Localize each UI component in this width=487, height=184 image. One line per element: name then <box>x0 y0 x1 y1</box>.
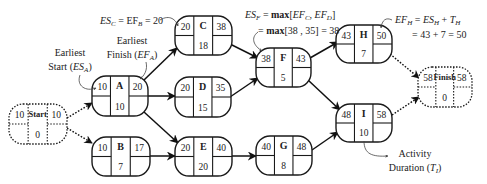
annotation-earliest-finish-l2: Finish (EFA) <box>107 49 158 62</box>
node-label: Finish <box>433 72 456 82</box>
edge-f-h <box>310 42 338 58</box>
node-label: E <box>200 141 207 152</box>
edge-g-i <box>312 132 338 150</box>
earliest-finish-value: 58 <box>377 110 387 120</box>
node-label: G <box>280 140 288 151</box>
node-label: C <box>200 20 207 31</box>
duration-value: 10 <box>115 102 125 112</box>
node-d: D203515 <box>175 77 231 117</box>
duration-value: 0 <box>35 130 40 140</box>
duration-value: 8 <box>281 161 286 171</box>
network-diagram: Start10100A102010B10177C203818D203515E20… <box>0 0 487 184</box>
earliest-start-value: 38 <box>261 54 271 64</box>
node-label: Start <box>28 109 47 119</box>
node-g: G40488 <box>256 136 312 175</box>
earliest-finish-value: 40 <box>217 143 227 153</box>
annotation-ef-h-line1: EFH = ESH + TH <box>394 14 461 27</box>
annotation-earliest-start-l1: Earliest <box>55 47 86 58</box>
annotation-es-f-line2: = max[38 , 35] = 38 <box>258 25 339 36</box>
earliest-finish-value: 20 <box>133 82 143 92</box>
node-h: H43507 <box>336 25 392 63</box>
node-finish: Finish58580 <box>418 67 472 107</box>
earliest-start-value: 20 <box>181 143 191 153</box>
earliest-start-value: 10 <box>97 82 107 92</box>
earliest-finish-value: 43 <box>296 54 306 64</box>
duration-value: 20 <box>198 162 208 172</box>
annotation-earliest-finish-l1: Earliest <box>117 35 148 46</box>
earliest-start-value: 20 <box>181 22 191 32</box>
earliest-finish-value: 10 <box>51 110 61 120</box>
edge-a-e <box>144 112 178 143</box>
annotation-es-c: ESC = EFB = 20 <box>99 15 163 28</box>
edge-h-finish <box>390 54 419 78</box>
earliest-start-value: 10 <box>98 143 108 153</box>
duration-value: 18 <box>198 41 208 51</box>
earliest-start-value: 40 <box>261 142 271 152</box>
duration-value: 5 <box>281 73 286 83</box>
node-f: F38435 <box>256 48 311 87</box>
earliest-finish-value: 58 <box>457 73 467 83</box>
earliest-finish-value: 48 <box>297 142 307 152</box>
node-label: A <box>116 80 124 91</box>
edge-f-i <box>308 80 340 110</box>
annotation-activity-duration-l2: Duration (TI) <box>389 162 442 175</box>
node-label: H <box>360 29 368 40</box>
edge-d-f <box>230 78 258 97</box>
annotation-activity-duration-l1: Activity <box>399 148 432 159</box>
node-label: I <box>362 108 366 119</box>
earliest-start-value: 48 <box>341 110 351 120</box>
diagram-canvas: Start10100A102010B10177C203818D203515E20… <box>0 0 487 184</box>
earliest-start-value: 58 <box>423 73 433 83</box>
duration-value: 15 <box>198 103 208 113</box>
node-c: C203818 <box>175 16 232 55</box>
node-a: A102010 <box>92 76 148 116</box>
earliest-finish-value: 17 <box>134 143 144 153</box>
duration-value: 0 <box>442 93 447 103</box>
earliest-finish-value: 38 <box>217 22 227 32</box>
node-start: Start10100 <box>9 104 67 144</box>
edge-start-b <box>67 128 92 143</box>
node-label: B <box>117 141 124 152</box>
duration-value: 10 <box>359 128 369 138</box>
duration-value: 7 <box>361 49 366 59</box>
earliest-finish-value: 50 <box>377 31 387 41</box>
duration-value: 7 <box>118 162 123 172</box>
earliest-start-value: 10 <box>15 110 25 120</box>
edge-i-finish <box>392 97 419 115</box>
node-label: F <box>280 52 286 63</box>
edge-c-f <box>230 44 258 58</box>
earliest-start-value: 43 <box>341 31 351 41</box>
earliest-start-value: 20 <box>180 83 190 93</box>
annotation-ef-h-line2: = 43 + 7 = 50 <box>412 29 466 40</box>
earliest-finish-value: 35 <box>216 83 226 93</box>
node-e: E204020 <box>175 137 232 176</box>
node-b: B10177 <box>92 137 150 176</box>
node-label: D <box>199 81 206 92</box>
edge-start-a <box>67 103 92 118</box>
annotation-earliest-start-l2: Start (ESA) <box>48 61 91 74</box>
node-i: I485810 <box>336 104 392 142</box>
annotation-es-f-line1: ESF = max[EFC, EFD] <box>244 9 335 22</box>
